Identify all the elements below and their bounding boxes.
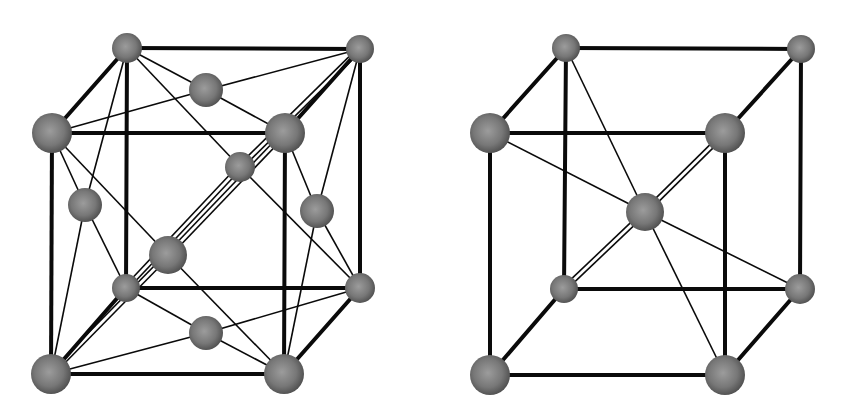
thin-bond bbox=[566, 48, 645, 212]
atom-ftr bbox=[705, 113, 745, 153]
thin-bond bbox=[645, 212, 725, 375]
atom-fbr bbox=[264, 354, 304, 394]
atom-ftl bbox=[32, 113, 72, 153]
bcc-unit-cell bbox=[470, 34, 815, 395]
atom-top bbox=[189, 73, 223, 107]
cube-edge bbox=[564, 48, 566, 289]
atom-ftl bbox=[470, 113, 510, 153]
fcc-unit-cell bbox=[31, 33, 375, 394]
atom-btl bbox=[112, 33, 142, 63]
atom-ftr bbox=[265, 113, 305, 153]
atom-btl bbox=[552, 34, 580, 62]
cube-edge bbox=[800, 49, 801, 289]
cube-edge bbox=[127, 48, 360, 49]
atom-right bbox=[300, 194, 334, 228]
atom-center bbox=[626, 193, 664, 231]
atom-fbl bbox=[470, 355, 510, 395]
lattice-diagrams-canvas bbox=[0, 0, 845, 413]
atom-bbr bbox=[785, 274, 815, 304]
atom-front bbox=[149, 236, 187, 274]
thin-bond bbox=[284, 211, 317, 374]
atom-bbl bbox=[550, 275, 578, 303]
cube-edge bbox=[126, 48, 127, 288]
atom-btr bbox=[346, 35, 374, 63]
thin-bond bbox=[490, 133, 645, 212]
atom-fbr bbox=[705, 355, 745, 395]
atom-back bbox=[225, 152, 255, 182]
cube-edge bbox=[51, 133, 52, 374]
thin-bond bbox=[52, 90, 206, 133]
atom-fbl bbox=[31, 354, 71, 394]
atom-bot bbox=[189, 316, 223, 350]
thin-bond bbox=[52, 133, 168, 255]
cube-edge bbox=[284, 133, 285, 374]
atom-bbr bbox=[345, 273, 375, 303]
atom-left bbox=[68, 188, 102, 222]
thin-bond bbox=[240, 167, 360, 288]
thin-bond bbox=[645, 212, 800, 289]
crystal-lattice-figure bbox=[0, 0, 845, 413]
atom-bbl bbox=[112, 274, 140, 302]
cube-edge bbox=[566, 48, 801, 49]
atom-btr bbox=[787, 35, 815, 63]
